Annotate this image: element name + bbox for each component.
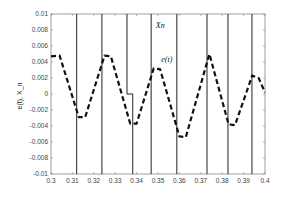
y-tick-label: 0.006 <box>32 42 49 49</box>
y-tick-label: 0.002 <box>32 74 49 81</box>
y-axis-label: e(t), X_n <box>16 82 24 109</box>
x-tick-label: 0.31 <box>66 177 79 184</box>
x-tick-label: 0.38 <box>216 177 229 184</box>
y-tick-label: 0 <box>44 90 48 97</box>
y-tick-label: -0.006 <box>30 138 49 145</box>
x-tick-label: 0.34 <box>130 177 143 184</box>
x-tick-label: 0.4 <box>260 177 269 184</box>
y-tick-label: 0.01 <box>35 10 48 17</box>
x-tick-label: 0.33 <box>109 177 122 184</box>
y-tick-label: 0.008 <box>32 26 49 33</box>
x-tick-label: 0.39 <box>237 177 250 184</box>
x-tick-label: 0.37 <box>194 177 207 184</box>
y-tick-label: -0.002 <box>30 106 49 113</box>
x-tick-label: 0.35 <box>152 177 165 184</box>
y-tick-label: -0.008 <box>30 154 49 161</box>
annotation-xn: Xn <box>155 21 165 30</box>
annotation-et: e(t) <box>161 55 172 64</box>
y-tick-label: 0.004 <box>32 58 49 65</box>
chart: 0.30.310.320.330.340.350.360.370.380.390… <box>0 0 282 198</box>
x-tick-label: 0.3 <box>46 177 55 184</box>
x-tick-label: 0.32 <box>87 177 100 184</box>
x-tick-label: 0.36 <box>173 177 186 184</box>
y-tick-label: -0.004 <box>30 122 49 129</box>
y-tick-label: -0.01 <box>33 170 48 177</box>
